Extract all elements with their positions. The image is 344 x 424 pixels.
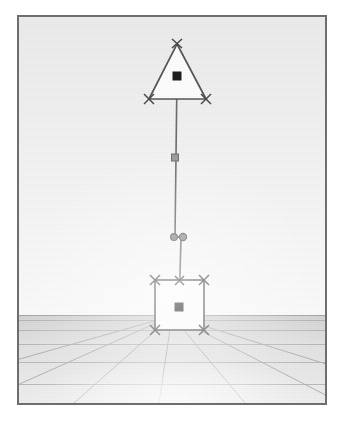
joint-handle-right[interactable] xyxy=(179,233,186,240)
perspective-viewport[interactable] xyxy=(17,15,327,405)
square-center-handle-core[interactable] xyxy=(175,303,184,312)
midpoint-handle[interactable] xyxy=(172,154,179,161)
triangle-center-handle-core[interactable] xyxy=(173,72,182,81)
joint-handle-left[interactable] xyxy=(171,234,178,241)
scene-canvas[interactable] xyxy=(19,17,325,403)
app-root xyxy=(0,0,344,424)
